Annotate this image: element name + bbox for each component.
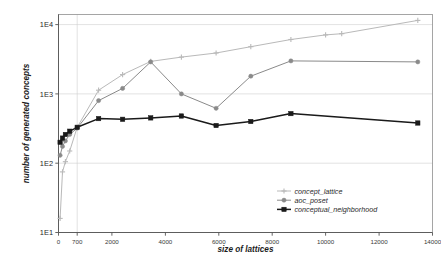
y-axis-tick-label: 1E2 bbox=[40, 159, 53, 168]
series-aoc_poset-marker bbox=[179, 92, 183, 96]
x-axis-tick-label: 10000 bbox=[317, 238, 335, 245]
legend-label-conceptual_neighborhood: conceptual_neighborhood bbox=[295, 205, 379, 214]
series-aoc_poset-marker bbox=[60, 144, 64, 148]
x-axis-tick-label: 8000 bbox=[265, 238, 279, 245]
x-axis-title: size of lattices bbox=[218, 245, 274, 254]
series-conceptual_neighborhood-marker bbox=[96, 116, 100, 120]
series-aoc_poset-marker bbox=[121, 86, 125, 90]
series-conceptual_neighborhood-marker bbox=[75, 125, 79, 129]
series-conceptual_neighborhood-marker bbox=[63, 132, 67, 136]
legend-conceptual_neighborhood-marker bbox=[282, 207, 286, 211]
x-axis-tick-label: 4000 bbox=[159, 238, 173, 245]
series-conceptual_neighborhood-marker bbox=[416, 121, 420, 125]
line-chart-canvas: 1E11E21E31E40700200040006000800010000120… bbox=[0, 0, 441, 265]
x-axis-tick-label: 0 bbox=[57, 238, 61, 245]
series-aoc_poset-marker bbox=[149, 60, 153, 64]
series-conceptual_neighborhood-marker bbox=[179, 114, 183, 118]
series-conceptual_neighborhood-marker bbox=[289, 111, 293, 115]
series-conceptual_neighborhood-marker bbox=[249, 119, 253, 123]
chart-figure: 1E11E21E31E40700200040006000800010000120… bbox=[0, 0, 441, 265]
series-conceptual_neighborhood-marker bbox=[214, 123, 218, 127]
x-axis-tick-label: 14000 bbox=[424, 238, 441, 245]
y-axis-tick-label: 1E4 bbox=[40, 20, 53, 29]
legend-aoc_poset-marker bbox=[282, 198, 286, 202]
y-axis-tick-label: 1E1 bbox=[40, 228, 53, 237]
legend-label-aoc_poset: aoc_poset bbox=[295, 196, 329, 205]
series-conceptual_neighborhood-marker bbox=[149, 116, 153, 120]
series-conceptual_neighborhood-marker bbox=[68, 129, 72, 133]
series-aoc_poset-marker bbox=[249, 74, 253, 78]
series-aoc_poset-marker bbox=[97, 99, 101, 103]
series-aoc_poset-marker bbox=[214, 106, 218, 110]
series-aoc_poset-marker bbox=[58, 153, 62, 157]
series-conceptual_neighborhood-marker bbox=[58, 140, 62, 144]
series-aoc_poset-marker bbox=[416, 60, 420, 64]
x-axis-tick-label: 6000 bbox=[212, 238, 226, 245]
series-conceptual_neighborhood-marker bbox=[120, 117, 124, 121]
series-aoc_poset-marker bbox=[289, 59, 293, 63]
y-axis-tick-label: 1E3 bbox=[40, 90, 53, 99]
x-axis-tick-label: 12000 bbox=[370, 238, 388, 245]
legend-label-concept_lattice: concept_lattice bbox=[295, 187, 343, 196]
x-axis-tick-label: 700 bbox=[72, 238, 83, 245]
x-axis-tick-label: 2000 bbox=[105, 238, 119, 245]
y-axis-title: number of generated concepts bbox=[22, 63, 31, 183]
